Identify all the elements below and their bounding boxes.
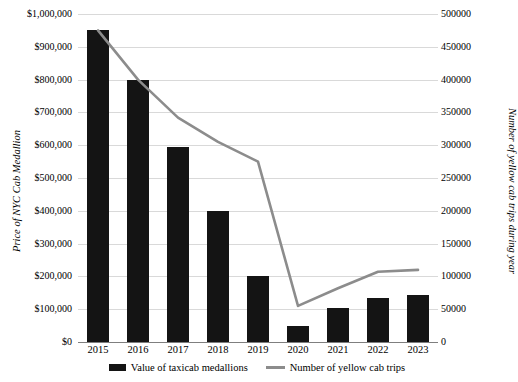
y-axis-left-tick-label: $800,000 [35, 75, 73, 85]
y-axis-left-tick-label: $900,000 [35, 42, 73, 52]
line-series [78, 14, 438, 342]
y-axis-left-ticks: $0$100,000$200,000$300,000$400,000$500,0… [18, 0, 72, 382]
y-axis-right-tick-label: 100000 [441, 271, 471, 281]
y-axis-right-tick-label: 400000 [441, 75, 471, 85]
y-axis-left-tick-label: $300,000 [35, 239, 73, 249]
y-axis-left-tick-label: $500,000 [35, 173, 73, 183]
y-axis-right-tick-label: 350000 [441, 107, 471, 117]
y-axis-left-tick-label: $0 [62, 337, 72, 347]
y-axis-right-tick-label: 0 [441, 337, 446, 347]
y-axis-right-tick-label: 500000 [441, 9, 471, 19]
x-axis-tick-label: 2016 [128, 345, 149, 356]
x-axis-tick-label: 2018 [208, 345, 229, 356]
x-axis-labels: 201520162017201820192020202120222023 [78, 345, 438, 361]
axis-baseline [78, 342, 438, 343]
y-axis-right-tick-label: 250000 [441, 173, 471, 183]
y-axis-left-tick-label: $400,000 [35, 206, 73, 216]
legend-item-trips: Number of yellow cab trips [266, 362, 405, 373]
x-axis-tick-label: 2021 [328, 345, 349, 356]
y-axis-right-tick-label: 200000 [441, 206, 471, 216]
x-axis-tick-label: 2015 [88, 345, 109, 356]
y-axis-left-tick-label: $600,000 [35, 140, 73, 150]
legend-label-trips: Number of yellow cab trips [290, 362, 405, 373]
plot-area [78, 14, 438, 342]
x-axis-tick-label: 2019 [248, 345, 269, 356]
y-axis-right-title: Number of yellow cab trips during year [507, 108, 518, 274]
y-axis-left-tick-label: $700,000 [35, 107, 73, 117]
y-axis-right-tick-label: 450000 [441, 42, 471, 52]
x-axis-tick-label: 2017 [168, 345, 189, 356]
y-axis-right-tick-label: 150000 [441, 239, 471, 249]
legend-line-swatch-icon [266, 366, 285, 369]
y-axis-right-tick-label: 300000 [441, 140, 471, 150]
y-axis-right-tick-label: 50000 [441, 304, 466, 314]
x-axis-tick-label: 2023 [408, 345, 429, 356]
legend-bar-swatch-icon [109, 364, 126, 371]
x-axis-tick-label: 2020 [288, 345, 309, 356]
x-axis-tick-label: 2022 [368, 345, 389, 356]
legend-label-medallions: Value of taxicab medallions [131, 362, 248, 373]
y-axis-right-title-wrap: Number of yellow cab trips during year [507, 81, 518, 301]
trips-line [98, 30, 418, 306]
y-axis-left-tick-label: $100,000 [35, 304, 73, 314]
y-axis-right-ticks: 0500001000001500002000002500003000003500… [441, 0, 491, 382]
chart-legend: Value of taxicab medallions Number of ye… [0, 362, 514, 373]
legend-item-medallions: Value of taxicab medallions [109, 362, 248, 373]
y-axis-left-tick-label: $200,000 [35, 271, 73, 281]
y-axis-left-tick-label: $1,000,000 [27, 9, 72, 19]
